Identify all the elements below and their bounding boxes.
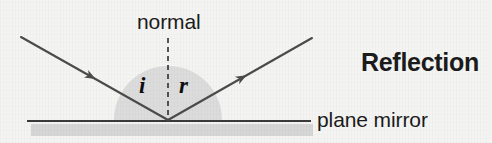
reflection-diagram: normal i r Reflection plane mirror [0, 0, 492, 143]
angle-of-incidence-label: i [139, 74, 145, 97]
figure-title: Reflection [361, 50, 479, 75]
incident-ray-arrow-icon [84, 70, 98, 83]
normal-label: normal [137, 11, 201, 32]
plane-mirror-label: plane mirror [317, 109, 428, 130]
angle-of-reflection-label: r [179, 74, 188, 97]
reflected-ray-arrow-icon [235, 71, 249, 84]
mirror-body [31, 124, 313, 136]
